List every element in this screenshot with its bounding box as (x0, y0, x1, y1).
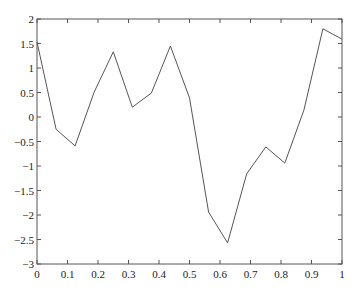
x-tick-label: 0.3 (122, 268, 136, 280)
y-tick-label: 2 (29, 13, 35, 25)
data-line (37, 29, 342, 243)
x-tick-label: 1 (339, 268, 345, 280)
line-chart: 00.10.20.30.40.50.60.70.80.91 21.510.50−… (0, 0, 359, 291)
x-tick-label: 0.7 (244, 268, 258, 280)
x-tick-label: 0 (34, 268, 40, 280)
y-tick-label: −1 (22, 160, 34, 172)
x-tick-label: 0.2 (91, 268, 105, 280)
x-tick-label: 0.1 (61, 268, 75, 280)
y-tick-label: 0.5 (20, 87, 34, 99)
y-tick-label: −2.5 (14, 234, 34, 246)
x-axis: 00.10.20.30.40.50.60.70.80.91 (34, 19, 345, 280)
y-tick-label: −2 (22, 209, 34, 221)
y-tick-label: −0.5 (14, 136, 34, 148)
y-tick-label: −1.5 (14, 185, 34, 197)
y-tick-label: −3 (22, 258, 34, 270)
plot-area (37, 19, 342, 264)
x-tick-label: 0.5 (183, 268, 197, 280)
x-tick-label: 0.9 (305, 268, 319, 280)
y-tick-label: 0 (29, 111, 35, 123)
y-tick-label: 1.5 (20, 38, 34, 50)
x-tick-label: 0.4 (152, 268, 166, 280)
x-tick-label: 0.8 (274, 268, 288, 280)
x-tick-label: 0.6 (213, 268, 227, 280)
y-tick-label: 1 (29, 62, 35, 74)
